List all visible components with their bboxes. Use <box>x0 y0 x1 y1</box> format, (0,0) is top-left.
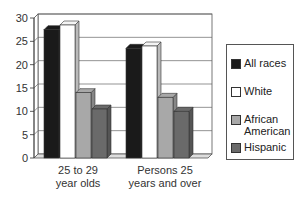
svg-text:30: 30 <box>16 12 28 24</box>
x-label-line: 25 to 29 <box>38 164 118 177</box>
x-axis-label-group-1: 25 to 29 year olds <box>38 164 118 190</box>
legend-item-african-american: African American <box>231 113 293 137</box>
x-label-line: years and over <box>120 177 210 190</box>
svg-text:25: 25 <box>16 35 28 47</box>
legend-swatch-hispanic <box>231 143 241 153</box>
legend-label: African American <box>244 113 293 137</box>
x-label-line: Persons 25 <box>120 164 210 177</box>
legend-label: Hispanic <box>244 141 286 153</box>
bar <box>92 105 111 158</box>
svg-text:5: 5 <box>22 129 28 141</box>
svg-text:15: 15 <box>16 82 28 94</box>
svg-text:0: 0 <box>22 152 28 164</box>
legend: All races White African American Hispani… <box>226 44 294 160</box>
legend-item-white: White <box>231 85 272 97</box>
legend-label: All races <box>244 57 286 69</box>
legend-swatch-all-races <box>231 59 241 69</box>
legend-item-hispanic: Hispanic <box>231 141 286 153</box>
legend-swatch-white <box>231 87 241 97</box>
svg-text:20: 20 <box>16 59 28 71</box>
legend-swatch-african-american <box>231 115 241 125</box>
x-label-line: year olds <box>38 177 118 190</box>
legend-label: White <box>244 85 272 97</box>
svg-text:10: 10 <box>16 105 28 117</box>
bar <box>174 107 193 158</box>
legend-item-all-races: All races <box>231 57 286 69</box>
x-axis-label-group-2: Persons 25 years and over <box>120 164 210 190</box>
